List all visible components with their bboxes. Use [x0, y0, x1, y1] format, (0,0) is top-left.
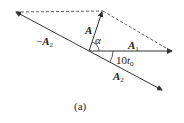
caption: (a) [74, 100, 87, 113]
angle-10t0-arc [110, 51, 113, 62]
vector-diagram: A α A1 −A2 A2 10t0 (a) [0, 0, 184, 123]
label-angle-10t0: 10t0 [116, 54, 134, 68]
label-neg-A2: −A2 [36, 35, 54, 49]
label-A1: A1 [127, 39, 139, 53]
label-A: A [84, 24, 92, 36]
label-A2: A2 [112, 70, 124, 84]
label-alpha: α [95, 34, 101, 46]
